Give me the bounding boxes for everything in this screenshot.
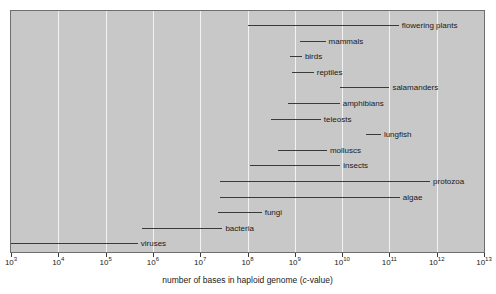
bar-row: teleosts	[11, 114, 484, 125]
bar-row: reptiles	[11, 67, 484, 78]
bar-row: flowering plants	[11, 20, 484, 31]
bar-row: mammals	[11, 36, 484, 47]
range-bar-label: fungi	[262, 207, 282, 218]
range-bar-label: teleosts	[321, 114, 352, 125]
x-tick	[58, 253, 59, 257]
x-axis: 1031041051061071081091010101110121013 nu…	[10, 253, 485, 294]
range-bar	[300, 41, 326, 42]
range-bar-label: lungfish	[381, 129, 412, 140]
bar-row: protozoa	[11, 176, 484, 187]
range-bar	[288, 103, 340, 104]
x-tick-label: 1010	[334, 258, 350, 267]
range-bar-label: salamanders	[389, 82, 438, 93]
range-bar-label: molluscs	[327, 145, 361, 156]
range-bar	[220, 197, 400, 198]
range-bar	[220, 181, 430, 182]
gridline	[484, 11, 485, 252]
range-bar-label: flowering plants	[399, 20, 458, 31]
plot-area: flowering plantsmammalsbirdsreptilessala…	[10, 10, 485, 253]
range-bar	[248, 25, 399, 26]
bar-row: viruses	[11, 238, 484, 249]
x-tick-label: 107	[194, 258, 206, 267]
range-bar	[142, 228, 222, 229]
range-bar-label: protozoa	[430, 176, 464, 187]
x-tick-label: 1012	[429, 258, 445, 267]
chart-figure: flowering plantsmammalsbirdsreptilessala…	[0, 0, 496, 294]
range-bar	[250, 165, 340, 166]
bar-row: molluscs	[11, 145, 484, 156]
x-tick	[200, 253, 201, 257]
range-bar-label: mammals	[326, 36, 364, 47]
x-tick-label: 103	[5, 258, 17, 267]
bar-row: bacteria	[11, 223, 484, 234]
bar-row: birds	[11, 51, 484, 62]
range-bar-label: reptiles	[314, 67, 343, 78]
range-bar-label: bacteria	[222, 223, 253, 234]
bar-row: amphibians	[11, 98, 484, 109]
range-bar-label: birds	[302, 51, 322, 62]
x-tick	[106, 253, 107, 257]
bar-row: insects	[11, 160, 484, 171]
bar-row: algae	[11, 192, 484, 203]
x-tick	[295, 253, 296, 257]
x-tick-label: 109	[289, 258, 301, 267]
bar-row: lungfish	[11, 129, 484, 140]
range-bar-label: amphibians	[340, 98, 384, 109]
range-bar-label: insects	[340, 160, 368, 171]
range-bar	[11, 243, 138, 244]
x-tick-label: 108	[241, 258, 253, 267]
x-tick	[248, 253, 249, 257]
x-axis-label: number of bases in haploid genome (c-val…	[10, 275, 485, 285]
range-bar	[271, 119, 321, 120]
x-tick-label: 105	[99, 258, 111, 267]
range-bar-label: algae	[400, 192, 423, 203]
range-bar	[278, 150, 327, 151]
bar-row: salamanders	[11, 82, 484, 93]
x-tick-label: 106	[147, 258, 159, 267]
range-bar-label: viruses	[138, 238, 166, 249]
x-tick	[11, 253, 12, 257]
x-tick-label: 1013	[476, 258, 492, 267]
x-tick-label: 104	[52, 258, 64, 267]
range-bar	[290, 56, 302, 57]
range-bar	[292, 72, 313, 73]
x-tick	[153, 253, 154, 257]
x-tick-label: 1011	[382, 258, 397, 267]
range-bar	[218, 212, 262, 213]
range-bar	[366, 134, 381, 135]
bar-row: fungi	[11, 207, 484, 218]
range-bar	[340, 87, 390, 88]
